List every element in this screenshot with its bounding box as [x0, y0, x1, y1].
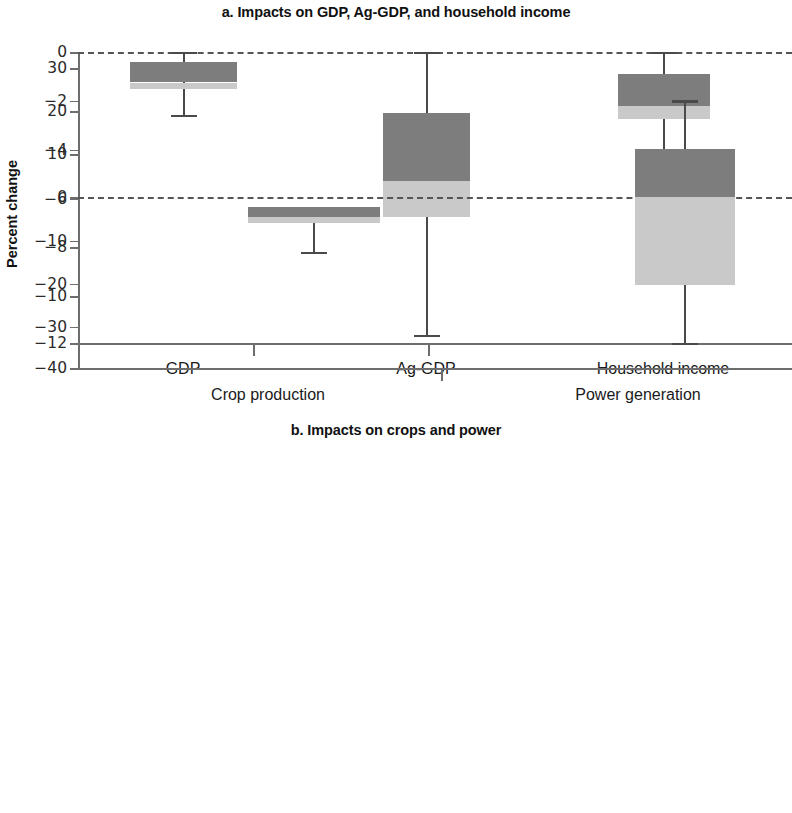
panel-b-power-whisker-lower-cap	[672, 343, 698, 345]
panel-b-ytick-0	[70, 68, 78, 70]
panel-b-crop-whisker-lower-cap	[301, 252, 327, 254]
panel-b-box-crop-production	[248, 68, 380, 370]
panel-b-power-whisker-lower-line	[684, 285, 686, 343]
panel-a-ytick-2	[70, 150, 78, 152]
panel-b-crop-light-segment	[248, 217, 380, 223]
panel-a-ytick-6	[70, 343, 78, 345]
panel-a-ytick-4	[70, 247, 78, 249]
panel-b-xtick-label-power-generation: Power generation	[575, 386, 700, 404]
panel-b-ytick-label-7: −40	[34, 359, 67, 377]
panel-b-ytick-label-3: 0	[57, 188, 67, 206]
panel-b-power-whisker-upper-cap	[672, 100, 698, 102]
panel-b-ytick-label-6: −30	[34, 318, 67, 336]
panel-b-power-dark-segment	[635, 149, 735, 198]
panel-b-title: b. Impacts on crops and power	[0, 422, 792, 438]
panel-a-ytick-0	[70, 52, 78, 54]
panel-b-xaxis-separator-1	[441, 368, 443, 381]
panel-a-y-axis-label: Percent change	[4, 160, 20, 268]
panel-a-title: a. Impacts on GDP, Ag-GDP, and household…	[0, 4, 792, 20]
panel-a-ag-gdp-whisker-upper-cap	[414, 52, 440, 54]
panel-b-y-axis-spine	[78, 68, 80, 370]
panel-a-ytick-label-6: −12	[34, 334, 67, 352]
panel-a-household-whisker-upper-cap	[651, 52, 677, 54]
panel-a-gdp-whisker-upper-cap	[171, 52, 197, 54]
panel-b-ytick-6	[70, 327, 78, 329]
panel-b: b. Impacts on crops and power Percent ch…	[0, 400, 792, 813]
panel-b-ytick-4	[70, 241, 78, 243]
panel-b-plot-area: 30 20 10 0 −10 −20 −30 −40 Crop producti…	[78, 68, 792, 370]
panel-b-ytick-label-4: −10	[34, 232, 67, 250]
panel-a-ytick-5	[70, 296, 78, 298]
panel-b-ytick-label-0: 30	[47, 59, 67, 77]
panel-b-box-power-generation	[635, 68, 735, 370]
panel-a-ytick-1	[70, 101, 78, 103]
panel-b-ytick-label-2: 10	[47, 145, 67, 163]
panel-b-crop-dark-segment	[248, 207, 380, 217]
panel-b-xtick-label-crop-production: Crop production	[211, 386, 325, 404]
panel-b-ytick-label-1: 20	[47, 102, 67, 120]
panel-b-power-light-segment	[635, 197, 735, 285]
panel-b-ytick-label-5: −20	[34, 275, 67, 293]
panel-b-ytick-5	[70, 284, 78, 286]
panel-b-ytick-2	[70, 154, 78, 156]
panel-b-ytick-7	[70, 368, 78, 370]
panel-b-ytick-1	[70, 111, 78, 113]
panel-b-ytick-3	[70, 197, 78, 199]
